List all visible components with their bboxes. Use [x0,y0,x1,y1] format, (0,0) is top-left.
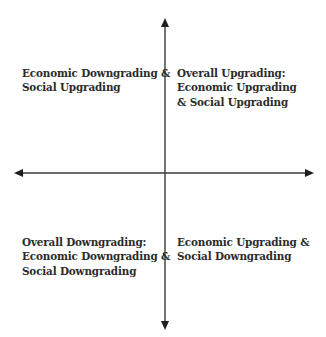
label-line: Social Downgrading [177,249,309,263]
quadrant-top-left-label: Economic Downgrading & Social Upgrading [22,66,170,95]
label-line: Social Upgrading [22,80,170,94]
left-arrow-icon [14,169,23,177]
quadrant-diagram: Economic Downgrading & Social Upgrading … [0,0,326,337]
quadrant-bottom-right-label: Economic Upgrading & Social Downgrading [177,235,309,264]
down-arrow-icon [161,321,169,330]
quadrant-top-right-label: Overall Upgrading: Economic Upgrading & … [177,66,297,109]
label-line: Overall Downgrading: [22,235,170,249]
label-line: Economic Downgrading & [22,249,170,263]
axes [0,0,326,337]
label-line: Overall Upgrading: [177,66,297,80]
label-line: Economic Downgrading & [22,66,170,80]
quadrant-bottom-left-label: Overall Downgrading: Economic Downgradin… [22,235,170,278]
label-line: & Social Upgrading [177,95,297,109]
label-line: Social Downgrading [22,264,170,278]
label-line: Economic Upgrading [177,80,297,94]
right-arrow-icon [305,169,314,177]
label-line: Economic Upgrading & [177,235,309,249]
up-arrow-icon [161,18,169,27]
